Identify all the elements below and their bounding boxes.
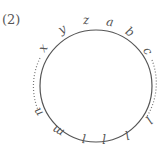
point-label-x: x bbox=[35, 41, 50, 55]
point-label-l: l bbox=[102, 131, 106, 144]
left-dotted-arc bbox=[33, 58, 40, 110]
point-label-a: a bbox=[105, 14, 114, 29]
point-label-l: l bbox=[143, 114, 156, 127]
circle-diagram: (2) xyzabcllllmn bbox=[0, 0, 160, 144]
point-label-l: l bbox=[81, 131, 86, 144]
point-label-y: y bbox=[55, 21, 69, 37]
figure-number-label: (2) bbox=[2, 12, 20, 27]
circle-figure: xyzabcllllmn bbox=[0, 0, 160, 144]
point-label-m: m bbox=[50, 122, 67, 140]
point-label-z: z bbox=[81, 13, 90, 28]
